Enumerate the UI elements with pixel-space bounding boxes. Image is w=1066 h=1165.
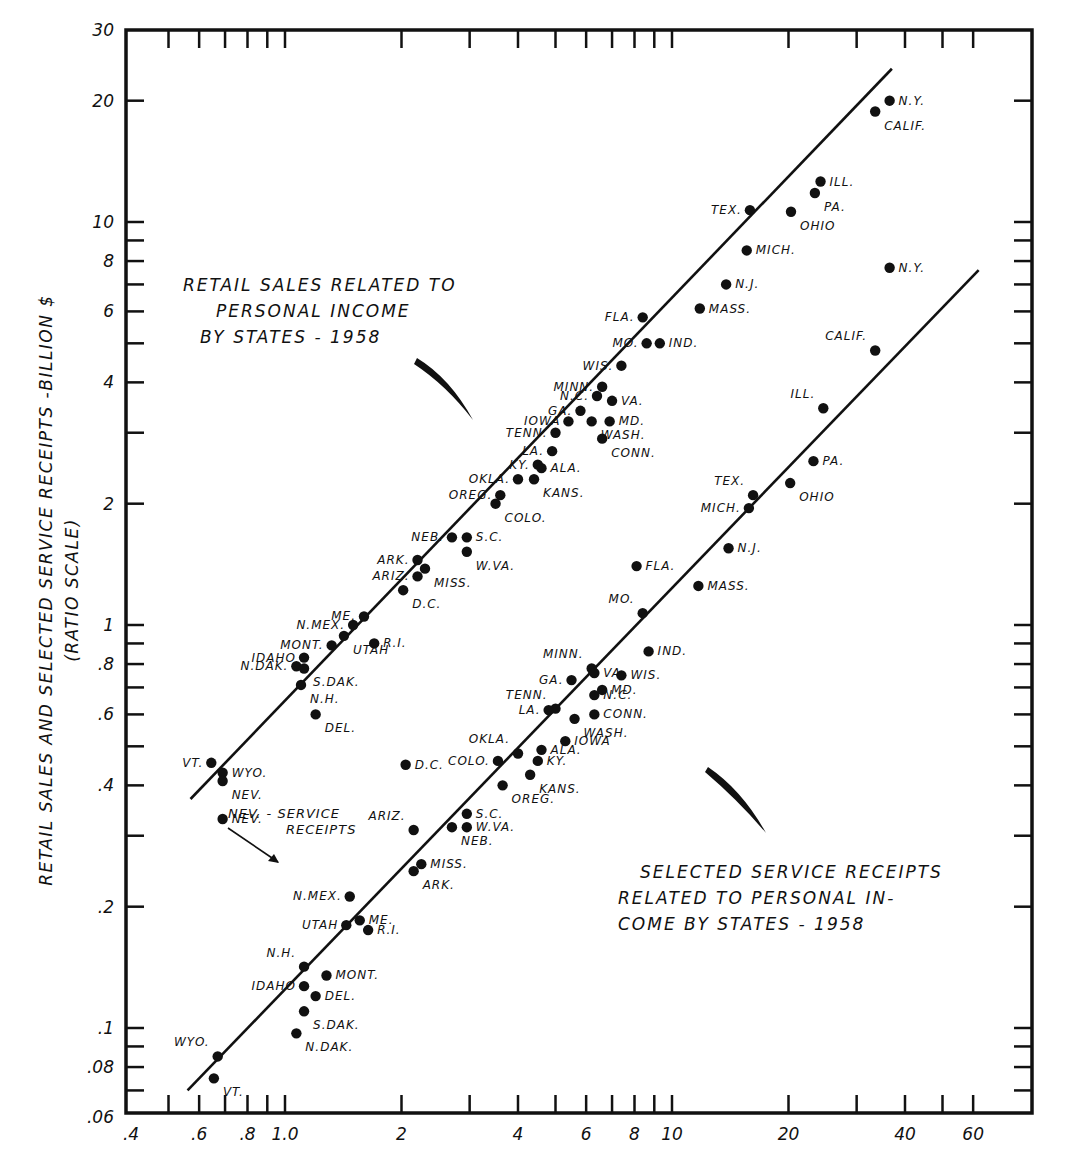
x-tick-label: 2 [396,1124,407,1144]
data-point [369,638,379,648]
data-points: N.Y.CALIF.ILL.PA.OHIOTEX.MICH.N.J.MASS.F… [174,94,926,1100]
state-label: WIS. [630,668,661,682]
data-point [529,474,539,484]
state-label: MICH. [756,243,796,257]
data-point [398,585,408,595]
state-label: PA. [824,200,846,214]
data-point [631,561,641,571]
state-label: MASS. [709,302,751,316]
y-tick-label: 30 [92,20,114,40]
data-point [447,532,457,542]
state-label: N.MEX. [293,889,342,903]
state-label: W.VA. [476,559,515,573]
state-label: DEL. [325,989,356,1003]
y-axis-label: RETAIL SALES AND SELECTED SERVICE RECEIP… [36,294,82,885]
data-point [299,961,309,971]
data-point [462,547,472,557]
data-point [536,463,546,473]
state-label: VA. [621,394,644,408]
data-point [217,814,227,824]
x-tick-label: 60 [962,1124,984,1144]
data-point [748,490,758,500]
state-label: R.I. [383,636,407,650]
nev-note-line-2: RECEIPTS [286,822,356,837]
state-label: ILL. [830,175,855,189]
data-point [589,668,599,678]
state-label: N.J. [738,541,762,555]
x-tick-label: 40 [894,1124,916,1144]
state-label: OHIO [799,490,834,504]
y-tick-label: .2 [98,897,114,917]
state-label: WASH. [601,428,646,442]
data-point [299,663,309,673]
data-point [616,670,626,680]
data-point [643,646,653,656]
data-point [575,406,585,416]
retail-title-line-1: RETAIL SALES RELATED TO [183,275,457,295]
data-point [723,543,733,553]
data-point [589,690,599,700]
state-label: MINN. [543,647,584,661]
state-label: PA. [822,454,844,468]
state-label: ARK. [422,878,455,892]
data-point [586,416,596,426]
x-tick-label: .8 [239,1124,255,1144]
y-tick-label: .06 [87,1107,114,1127]
state-label: KANS. [543,486,585,500]
state-label: CONN. [603,707,648,721]
data-point [637,608,647,618]
state-label: N.Y. [899,261,925,275]
state-label: TENN. [506,426,548,440]
data-point [616,360,626,370]
data-point [212,1051,222,1061]
state-label: D.C. [412,597,441,611]
state-label: R.I. [377,923,401,937]
y-tick-label: 10 [92,212,114,232]
state-label: UTAH [302,918,338,932]
state-label: S.C. [476,530,504,544]
state-label: MISS. [434,576,472,590]
data-point [693,581,703,591]
data-point [490,498,500,508]
data-point [291,1028,301,1038]
data-point [818,403,828,413]
y-axis-subtitle: (RATIO SCALE) [62,518,82,662]
state-label: NEB. [461,834,494,848]
data-point [785,478,795,488]
data-point [742,245,752,255]
data-point [408,866,418,876]
data-point [321,970,331,980]
y-tick-label: 1 [103,615,114,635]
data-point [412,571,422,581]
retail-pointer-stroke [414,358,473,420]
retail-title-annotation: RETAIL SALES RELATED TO PERSONAL INCOME … [183,275,473,420]
y-tick-label: .1 [98,1018,114,1038]
state-label: WYO. [232,766,268,780]
state-label: NEV. [232,788,263,802]
state-label: IND. [658,644,688,658]
data-point [341,920,351,930]
y-tick-label: 8 [103,251,114,271]
y-tick-label: .4 [98,775,114,795]
state-label: N.H. [310,692,340,706]
service-series: N.Y.CALIF.ILL.PA.OHIOTEX.MICH.N.J.MASS.F… [174,261,925,1100]
state-label: LA. [522,444,544,458]
state-label: N.DAK. [240,659,288,673]
x-tick-label: 1.0 [271,1124,298,1144]
state-label: VT. [223,1085,244,1099]
data-point [536,745,546,755]
state-label: W.VA. [476,820,515,834]
data-point [206,758,216,768]
y-tick-label: 4 [103,372,114,392]
service-title-line-1: SELECTED SERVICE RECEIPTS [640,862,943,882]
state-label: NEB. [411,530,444,544]
data-point [310,709,320,719]
state-label: MISS. [430,857,468,871]
data-point [497,780,507,790]
data-point [870,106,880,116]
x-tick-label: .6 [191,1124,207,1144]
state-label: ALA. [549,461,581,475]
state-label: CALIF. [884,119,926,133]
state-label: MO. [613,336,639,350]
state-label: KY. [547,754,567,768]
